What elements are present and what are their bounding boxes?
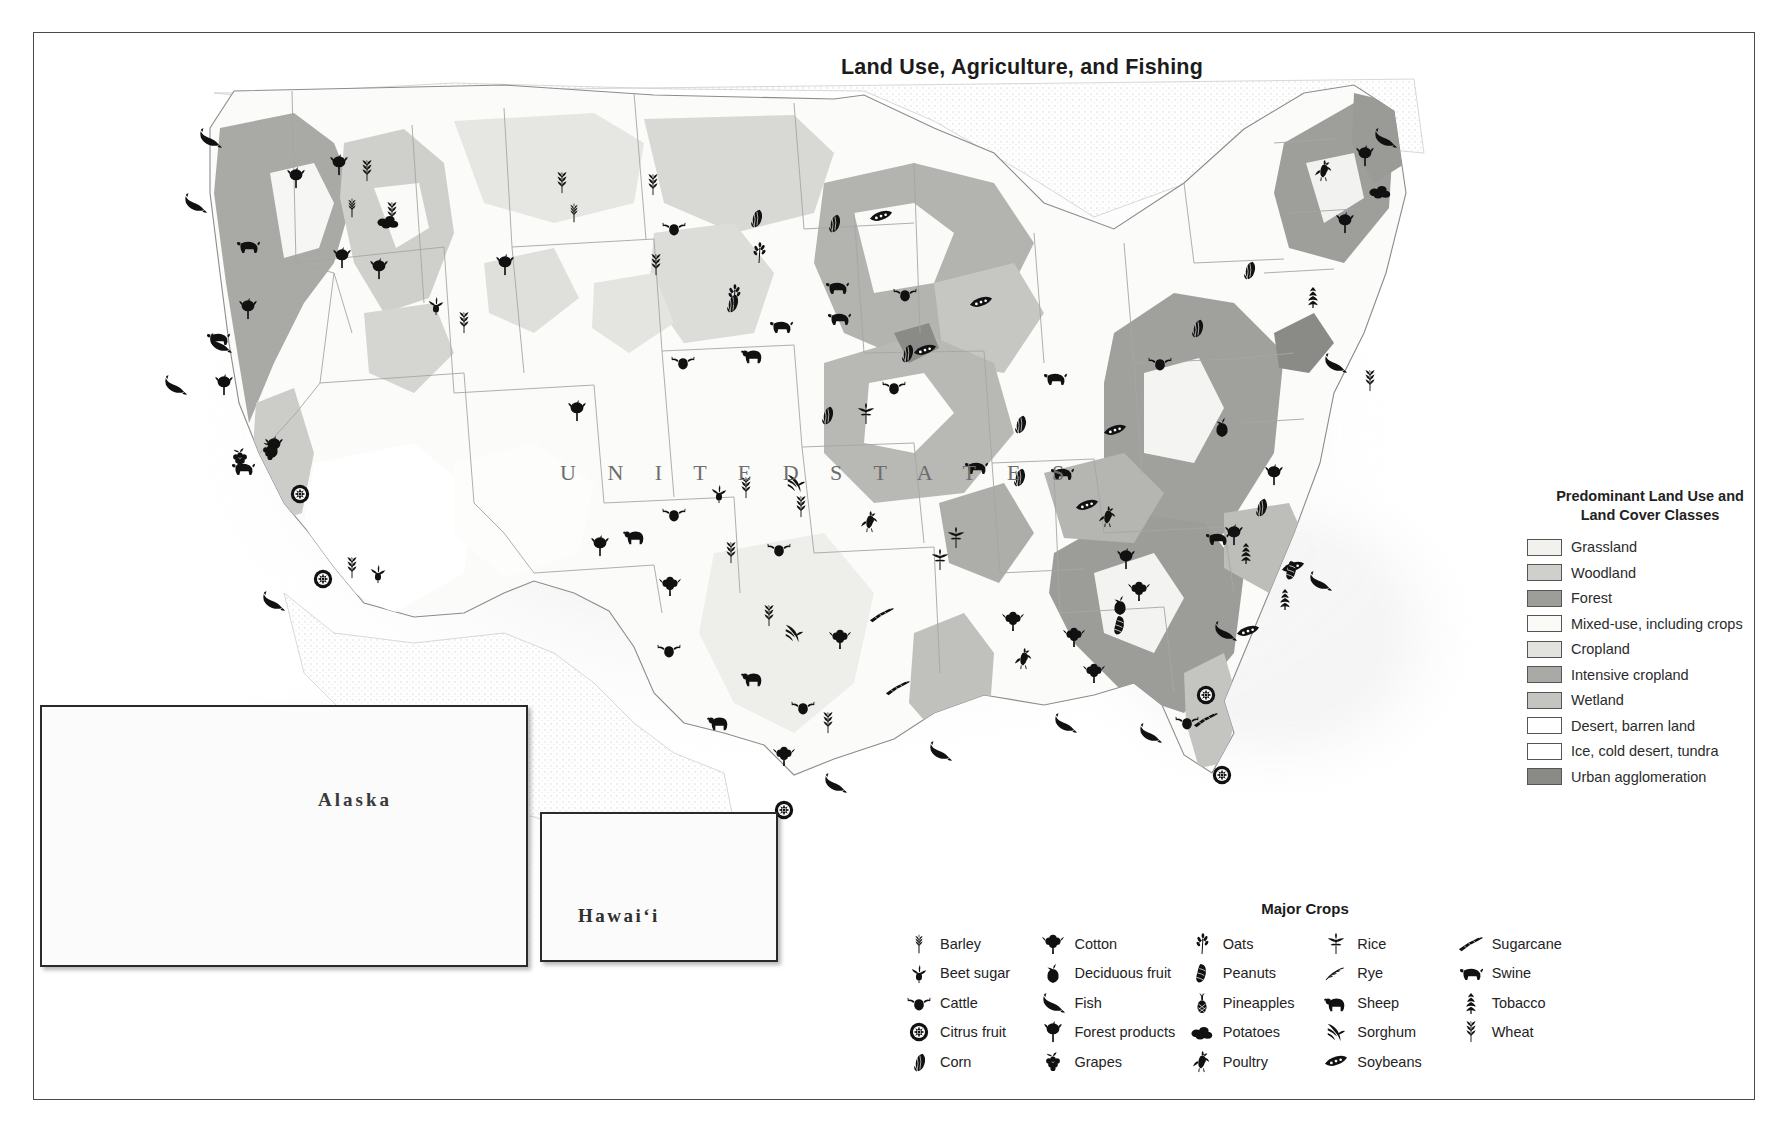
land-use-class-row[interactable]: Urban agglomeration	[1527, 764, 1779, 790]
major-crops-row[interactable]: Oats	[1188, 929, 1322, 959]
map-page: Land Use, Agriculture, and Fishing U N I…	[0, 0, 1789, 1133]
land-use-swatch	[1527, 615, 1562, 632]
land-use-class-row[interactable]: Wetland	[1527, 687, 1779, 713]
major-crops-label: Sugarcane	[1492, 936, 1562, 952]
land-use-swatch	[1527, 768, 1562, 785]
sheep-icon	[1322, 990, 1350, 1016]
major-crops-row[interactable]: Beet sugar	[905, 959, 1039, 989]
major-crops-row[interactable]: Citrus fruit	[905, 1018, 1039, 1048]
poultry-icon	[1188, 1049, 1216, 1075]
page-title: Land Use, Agriculture, and Fishing	[0, 55, 1789, 80]
land-use-class-row[interactable]: Desert, barren land	[1527, 713, 1779, 739]
major-crops-column: RiceRyeSheepSorghumSoybeans	[1322, 929, 1456, 1077]
major-crops-label: Wheat	[1492, 1024, 1534, 1040]
land-use-swatch	[1527, 590, 1562, 607]
major-crops-row[interactable]: Swine	[1457, 959, 1605, 989]
land-use-label: Grassland	[1571, 539, 1637, 555]
major-crops-row[interactable]: Deciduous fruit	[1039, 959, 1187, 989]
corn-icon	[905, 1049, 933, 1075]
major-crops-row[interactable]: Corn	[905, 1047, 1039, 1077]
major-crops-row[interactable]: Potatoes	[1188, 1018, 1322, 1048]
major-crops-row[interactable]: Sugarcane	[1457, 929, 1605, 959]
cotton-icon	[1039, 931, 1067, 957]
land-use-class-row[interactable]: Woodland	[1527, 560, 1779, 586]
sorghum-icon	[1322, 1019, 1350, 1045]
land-use-swatch	[1527, 717, 1562, 734]
major-crops-label: Forest products	[1074, 1024, 1175, 1040]
rice-icon	[1322, 931, 1350, 957]
major-crops-row[interactable]: Rice	[1322, 929, 1456, 959]
major-crops-label: Citrus fruit	[940, 1024, 1006, 1040]
major-crops-row[interactable]: Barley	[905, 929, 1039, 959]
major-crops-legend-title: Major Crops	[905, 900, 1605, 917]
swine-icon	[1457, 960, 1485, 986]
sugarcane-icon	[1457, 931, 1485, 957]
major-crops-row[interactable]: Fish	[1039, 988, 1187, 1018]
land-use-class-row[interactable]: Forest	[1527, 585, 1779, 611]
land-use-legend: Predominant Land Use and Land Cover Clas…	[1527, 487, 1779, 789]
major-crops-column: BarleyBeet sugarCattleCitrus fruitCorn	[905, 929, 1039, 1077]
major-crops-label: Beet sugar	[940, 965, 1010, 981]
major-crops-row[interactable]: Cattle	[905, 988, 1039, 1018]
major-crops-row[interactable]: Cotton	[1039, 929, 1187, 959]
legend-title-line-1: Predominant Land Use and	[1527, 487, 1773, 506]
major-crops-row[interactable]: Sheep	[1322, 988, 1456, 1018]
major-crops-label: Sorghum	[1357, 1024, 1416, 1040]
land-use-label: Intensive cropland	[1571, 667, 1689, 683]
land-use-class-row[interactable]: Grassland	[1527, 534, 1779, 560]
major-crops-row[interactable]: Rye	[1322, 959, 1456, 989]
land-use-label: Ice, cold desert, tundra	[1571, 743, 1719, 759]
tobacco-icon	[1457, 990, 1485, 1016]
land-use-label: Forest	[1571, 590, 1612, 606]
land-use-swatch	[1527, 539, 1562, 556]
land-use-legend-title: Predominant Land Use and Land Cover Clas…	[1527, 487, 1779, 525]
major-crops-row[interactable]: Soybeans	[1322, 1047, 1456, 1077]
major-crops-label: Oats	[1223, 936, 1254, 952]
major-crops-row[interactable]: Tobacco	[1457, 988, 1605, 1018]
major-crops-columns: BarleyBeet sugarCattleCitrus fruitCornCo…	[905, 929, 1605, 1077]
hawaii-inset-box	[540, 812, 778, 962]
citrus-fruit-icon	[905, 1019, 933, 1045]
major-crops-column: OatsPeanutsPineapplesPotatoesPoultry	[1188, 929, 1322, 1077]
major-crops-row[interactable]: Poultry	[1188, 1047, 1322, 1077]
land-use-class-row[interactable]: Cropland	[1527, 636, 1779, 662]
major-crops-row[interactable]: Pineapples	[1188, 988, 1322, 1018]
major-crops-row[interactable]: Grapes	[1039, 1047, 1187, 1077]
major-crops-label: Sheep	[1357, 995, 1399, 1011]
land-use-class-row[interactable]: Ice, cold desert, tundra	[1527, 738, 1779, 764]
wheat-icon	[1457, 1019, 1485, 1045]
major-crops-label: Rye	[1357, 965, 1383, 981]
major-crops-label: Peanuts	[1223, 965, 1276, 981]
major-crops-legend: Major Crops BarleyBeet sugarCattleCitrus…	[905, 900, 1605, 1077]
major-crops-row[interactable]: Wheat	[1457, 1018, 1605, 1048]
major-crops-label: Grapes	[1074, 1054, 1122, 1070]
major-crops-label: Pineapples	[1223, 995, 1295, 1011]
forest-products-icon	[1039, 1019, 1067, 1045]
land-use-swatch	[1527, 692, 1562, 709]
oats-icon	[1188, 931, 1216, 957]
major-crops-label: Poultry	[1223, 1054, 1268, 1070]
land-use-label: Urban agglomeration	[1571, 769, 1706, 785]
major-crops-label: Fish	[1074, 995, 1101, 1011]
land-use-class-row[interactable]: Mixed-use, including crops	[1527, 611, 1779, 637]
major-crops-label: Barley	[940, 936, 981, 952]
land-use-label: Woodland	[1571, 565, 1636, 581]
legend-title-line-2: Land Cover Classes	[1527, 506, 1773, 525]
major-crops-row[interactable]: Sorghum	[1322, 1018, 1456, 1048]
major-crops-column: SugarcaneSwineTobaccoWheat	[1457, 929, 1605, 1077]
pineapples-icon	[1188, 990, 1216, 1016]
major-crops-label: Soybeans	[1357, 1054, 1422, 1070]
cattle-icon	[905, 990, 933, 1016]
soybeans-icon	[1322, 1049, 1350, 1075]
land-use-class-row[interactable]: Intensive cropland	[1527, 662, 1779, 688]
land-use-class-list: GrasslandWoodlandForestMixed-use, includ…	[1527, 534, 1779, 789]
land-use-swatch	[1527, 743, 1562, 760]
major-crops-label: Deciduous fruit	[1074, 965, 1171, 981]
major-crops-row[interactable]: Forest products	[1039, 1018, 1187, 1048]
major-crops-row[interactable]: Peanuts	[1188, 959, 1322, 989]
rye-icon	[1322, 960, 1350, 986]
major-crops-column: CottonDeciduous fruitFishForest products…	[1039, 929, 1187, 1077]
grapes-icon	[1039, 1049, 1067, 1075]
major-crops-label: Potatoes	[1223, 1024, 1280, 1040]
beet-sugar-icon	[905, 960, 933, 986]
